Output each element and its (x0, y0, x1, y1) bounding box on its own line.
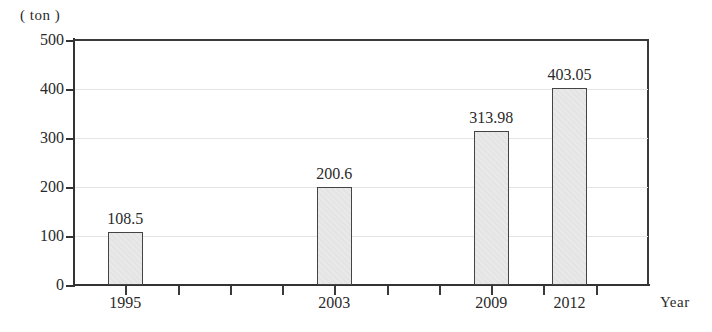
y-tick-100: 100 (0, 228, 64, 244)
bar-value-label-1995: 108.5 (80, 210, 170, 228)
bar-value-label-2009: 313.98 (446, 109, 536, 127)
x-tick-label-2012: 2012 (540, 294, 600, 312)
y-tick-label-100: 100 (2, 228, 64, 244)
y-tick-300: 300 (0, 130, 64, 146)
x-tick-mark-2005 (387, 286, 389, 295)
y-tick-label-300: 300 (2, 130, 64, 146)
bar-2003 (317, 187, 352, 285)
bar-2012 (552, 88, 587, 285)
y-tick-label-500: 500 (2, 32, 64, 48)
y-tick-400: 400 (0, 81, 64, 97)
y-tick-label-400: 400 (2, 81, 64, 97)
bar-1995 (108, 232, 143, 285)
x-tick-label-2003: 2003 (304, 294, 364, 312)
x-tick-mark-2001 (282, 286, 284, 295)
y-tick-label-200: 200 (2, 179, 64, 195)
x-tick-label-1995: 1995 (95, 294, 155, 312)
x-tick-mark-1999 (230, 286, 232, 295)
x-axis-title: Year (660, 294, 690, 311)
bar-2009 (474, 131, 509, 285)
y-tick-label-0: 0 (2, 277, 64, 293)
bar-value-label-2012: 403.05 (525, 66, 615, 84)
bar-chart: ( ton ) 0100200300400500 199520032009201… (0, 0, 712, 332)
bar-value-label-2003: 200.6 (289, 165, 379, 183)
x-tick-label-2009: 2009 (461, 294, 521, 312)
y-tick-0: 0 (0, 277, 64, 293)
y-axis-unit-label: ( ton ) (20, 7, 60, 24)
x-tick-mark-2007 (439, 286, 441, 295)
y-tick-mark-0 (66, 285, 75, 287)
x-tick-mark-1997 (178, 286, 180, 295)
y-tick-200: 200 (0, 179, 64, 195)
y-tick-500: 500 (0, 32, 64, 48)
